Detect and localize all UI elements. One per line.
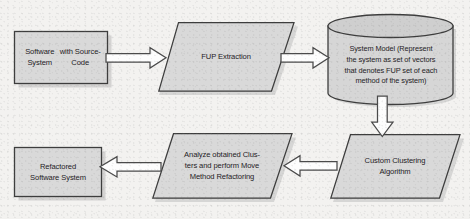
node-system-model[interactable]: System Model (Represent the system as se… — [327, 14, 455, 101]
node-fup-extraction-label: FUP Extraction — [158, 22, 294, 91]
node-analyze-clusters[interactable]: Analyze obtained Clus- ters and perform … — [152, 133, 292, 199]
process-flow-diagram: Software System with Source-Code FUP Ext… — [0, 0, 470, 219]
node-custom-clustering[interactable]: Custom Clustering Algorithm — [330, 134, 460, 199]
node-software-system[interactable]: Software System with Source-Code — [14, 31, 107, 83]
node-software-system-label: Software System with Source-Code — [14, 31, 107, 83]
node-custom-clustering-label: Custom Clustering Algorithm — [330, 134, 460, 198]
node-analyze-clusters-label: Analyze obtained Clus- ters and perform … — [152, 133, 292, 198]
node-system-model-label: System Model (Represent the system as se… — [327, 18, 455, 113]
node-fup-extraction[interactable]: FUP Extraction — [158, 22, 294, 92]
node-refactored-system[interactable]: Refactored Software System — [14, 147, 101, 196]
node-refactored-system-label: Refactored Software System — [14, 147, 102, 197]
